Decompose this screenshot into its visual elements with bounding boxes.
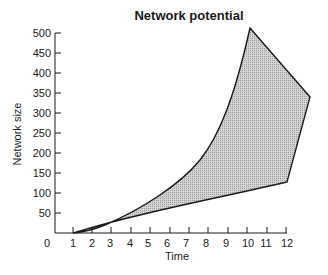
y-ticks bbox=[55, 33, 61, 213]
svg-text:7: 7 bbox=[183, 237, 189, 249]
x-axis-label: Time bbox=[165, 250, 189, 262]
svg-text:150: 150 bbox=[33, 167, 51, 179]
svg-text:400: 400 bbox=[33, 67, 51, 79]
svg-text:8: 8 bbox=[203, 237, 209, 249]
svg-text:9: 9 bbox=[223, 237, 229, 249]
svg-text:50: 50 bbox=[39, 207, 51, 219]
y-axis-label: Network size bbox=[11, 103, 23, 166]
svg-text:250: 250 bbox=[33, 127, 51, 139]
y-tick-labels: 500 450 400 350 300 250 200 150 100 50 bbox=[33, 27, 51, 219]
svg-text:100: 100 bbox=[33, 187, 51, 199]
svg-text:200: 200 bbox=[33, 147, 51, 159]
svg-text:500: 500 bbox=[33, 27, 51, 39]
svg-text:11: 11 bbox=[260, 237, 271, 249]
svg-text:4: 4 bbox=[127, 237, 133, 249]
svg-text:300: 300 bbox=[33, 107, 51, 119]
svg-text:3: 3 bbox=[107, 237, 113, 249]
svg-text:350: 350 bbox=[33, 87, 51, 99]
svg-text:450: 450 bbox=[33, 47, 51, 59]
potential-area bbox=[73, 28, 310, 233]
svg-text:2: 2 bbox=[89, 237, 95, 249]
svg-text:5: 5 bbox=[145, 237, 151, 249]
svg-text:12: 12 bbox=[281, 237, 293, 249]
x-tick-labels: 0 1 2 3 4 5 6 7 8 9 10 11 12 bbox=[44, 237, 293, 249]
svg-text:1: 1 bbox=[70, 237, 76, 249]
chart-plot: 500 450 400 350 300 250 200 150 100 50 0… bbox=[0, 0, 328, 275]
x-ticks bbox=[73, 227, 286, 233]
svg-text:10: 10 bbox=[242, 237, 254, 249]
svg-text:6: 6 bbox=[164, 237, 170, 249]
svg-text:0: 0 bbox=[44, 237, 50, 249]
